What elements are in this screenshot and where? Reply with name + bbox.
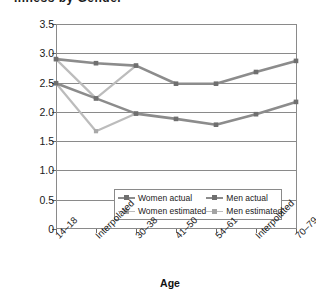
chart-figure: Religiousness* Women actual Men actual W…	[0, 0, 316, 295]
legend-label-men-actual: Men actual	[226, 194, 268, 203]
y-axis-tick-label: 1.0	[8, 164, 54, 176]
legend-label-women-actual: Women actual	[138, 194, 192, 203]
legend-swatch-men-estimated	[206, 207, 223, 215]
chart-legend: Women actual Men actual Women estimated …	[114, 189, 282, 220]
y-axis-tick-label: 0	[8, 223, 54, 235]
legend-swatch-men-actual	[206, 194, 223, 202]
y-axis-tick-label: 3.0	[8, 47, 54, 59]
x-axis-label: Age	[0, 277, 316, 289]
y-axis-tick-label: 0.5	[8, 194, 54, 206]
y-axis-tick-label: 2.0	[8, 106, 54, 118]
x-axis-label-text: Age	[160, 277, 180, 289]
y-axis-tick-label: 1.5	[8, 135, 54, 147]
legend-item-men-actual: Men actual	[206, 194, 282, 203]
legend-label-women-estimated: Women estimated	[138, 207, 206, 216]
y-axis-tick-label: 3.5	[8, 18, 54, 30]
y-axis-tick-label: 2.5	[8, 77, 54, 89]
